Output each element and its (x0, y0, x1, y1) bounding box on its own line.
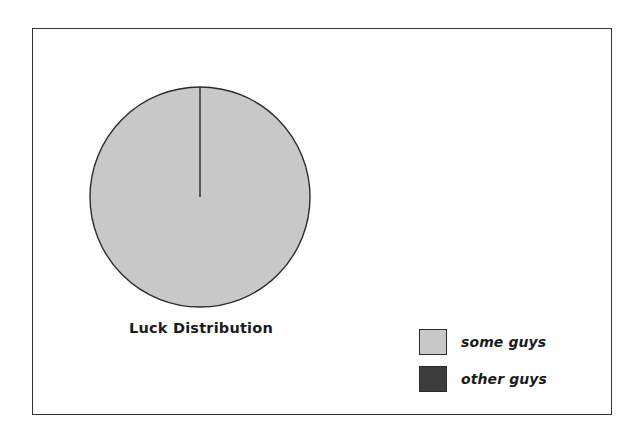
legend-label-other-guys: other guys (461, 371, 547, 387)
figure-frame: Luck Distribution some guys other guys (32, 28, 612, 415)
legend-item-some-guys: some guys (419, 329, 547, 355)
legend-swatch-other-guys (419, 366, 447, 392)
chart-title: Luck Distribution (73, 320, 329, 336)
legend-item-other-guys: other guys (419, 366, 547, 392)
legend-label-some-guys: some guys (461, 334, 546, 350)
pie-chart-svg (89, 86, 311, 308)
pie-chart (89, 86, 311, 308)
legend-swatch-some-guys (419, 329, 447, 355)
legend: some guys other guys (419, 329, 547, 392)
